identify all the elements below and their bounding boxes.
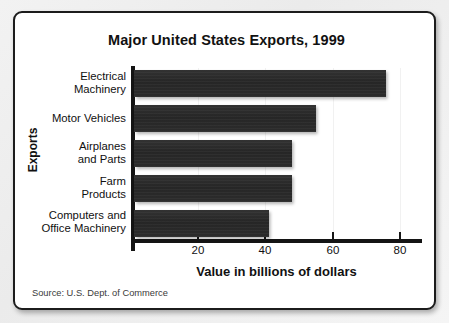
x-tick-label-60: 60 — [313, 244, 353, 256]
screenshot-canvas: Major United States Exports, 1999 Export… — [0, 0, 449, 323]
category-label-farm-products: Farm Products — [0, 175, 126, 200]
bar-motor-vehicles — [134, 105, 316, 132]
x-axis-line — [131, 239, 422, 243]
bar-electrical-machinery — [134, 70, 386, 97]
category-label-computers-and-office-machinery: Computers and Office Machinery — [0, 209, 126, 234]
category-label-line: Machinery — [0, 83, 126, 96]
category-label-airplanes-and-parts: Airplanes and Parts — [0, 140, 126, 165]
chart-card: Major United States Exports, 1999 Export… — [13, 11, 436, 310]
category-label-line: and Parts — [0, 153, 126, 166]
x-axis-title: Value in billions of dollars — [131, 264, 422, 279]
category-label-line: Computers and — [0, 209, 126, 222]
gridline-80 — [400, 68, 401, 240]
bar-airplanes-and-parts — [134, 140, 292, 167]
x-tick-label-20: 20 — [178, 244, 218, 256]
category-label-line: Motor Vehicles — [0, 112, 126, 125]
category-label-line: Airplanes — [0, 140, 126, 153]
plot-area: Exports 20 40 60 80 Electrical — [15, 13, 438, 312]
category-label-motor-vehicles: Motor Vehicles — [0, 112, 126, 125]
x-tick-60 — [332, 232, 334, 240]
category-label-line: Office Machinery — [0, 222, 126, 235]
category-label-line: Products — [0, 188, 126, 201]
bar-farm-products — [134, 175, 292, 202]
x-tick-label-40: 40 — [245, 244, 285, 256]
source-note: Source: U.S. Dept. of Commerce — [32, 288, 168, 298]
x-tick-label-80: 80 — [380, 244, 420, 256]
category-label-line: Farm — [0, 175, 126, 188]
x-tick-80 — [399, 232, 401, 240]
bar-computers-and-office-machinery — [134, 210, 269, 237]
category-label-electrical-machinery: Electrical Machinery — [0, 70, 126, 95]
category-label-line: Electrical — [0, 70, 126, 83]
